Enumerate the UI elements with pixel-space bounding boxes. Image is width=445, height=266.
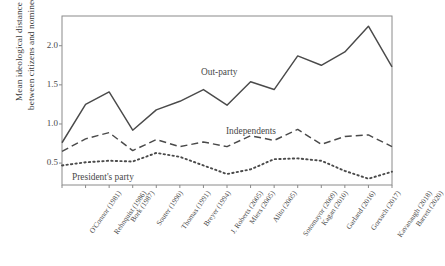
- plot-frame: [62, 16, 392, 185]
- series-label: Independents: [226, 126, 276, 136]
- series-label: President's party: [72, 172, 134, 182]
- series-label: Out-party: [201, 67, 237, 77]
